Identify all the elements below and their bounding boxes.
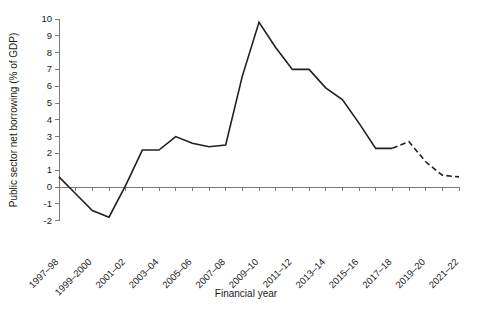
- series-line-forecast: [392, 142, 459, 177]
- y-axis-tick-label: 0: [47, 181, 52, 192]
- y-axis-tick-label: 2: [47, 147, 52, 158]
- y-axis-tick-label: 3: [47, 131, 52, 142]
- public-sector-net-borrowing-line-chart: -2-1012345678910 1997–981999–20002001–02…: [0, 0, 477, 313]
- x-axis-tick-label: 2007–08: [193, 256, 227, 290]
- x-axis-tick-label: 2005–06: [160, 256, 194, 290]
- y-axis-title: Public sector net borrowing (% of GDP): [8, 33, 19, 208]
- y-axis-tick-label: 8: [47, 47, 52, 58]
- x-axis-tick-label: 2013–14: [293, 256, 327, 290]
- x-axis-tick-label: 2011–12: [260, 256, 293, 289]
- x-axis-title: Financial year: [215, 288, 278, 299]
- y-axis-tick-label: 7: [47, 63, 52, 74]
- x-axis-tick-label: 2001–02: [93, 256, 127, 290]
- y-axis-tick-label: -1: [44, 198, 52, 209]
- x-axis-tick-label: 2021–22: [426, 256, 460, 290]
- x-axis-tick-label: 2009–10: [226, 256, 260, 290]
- x-axis: 1997–981999–20002001–022003–042005–06200…: [26, 187, 460, 298]
- x-axis-tick-label: 2019–20: [393, 256, 427, 290]
- y-axis-tick-label: 10: [41, 13, 52, 24]
- y-axis-tick-label: 9: [47, 30, 52, 41]
- y-axis-tick-label: 6: [47, 80, 52, 91]
- y-axis-tick-label: 4: [47, 114, 52, 125]
- x-axis-tick-label: 1997–98: [26, 256, 60, 290]
- y-axis: -2-1012345678910: [41, 13, 59, 226]
- chart-container: -2-1012345678910 1997–981999–20002001–02…: [0, 0, 477, 313]
- x-axis-tick-label: 2017–18: [360, 256, 394, 290]
- x-axis-tick-label: 2003–04: [126, 256, 160, 290]
- y-axis-tick-label: 5: [47, 97, 52, 108]
- x-axis-tick-label: 2015–16: [326, 256, 360, 290]
- y-axis-tick-label: 1: [47, 164, 52, 175]
- y-axis-tick-label: -2: [44, 215, 52, 226]
